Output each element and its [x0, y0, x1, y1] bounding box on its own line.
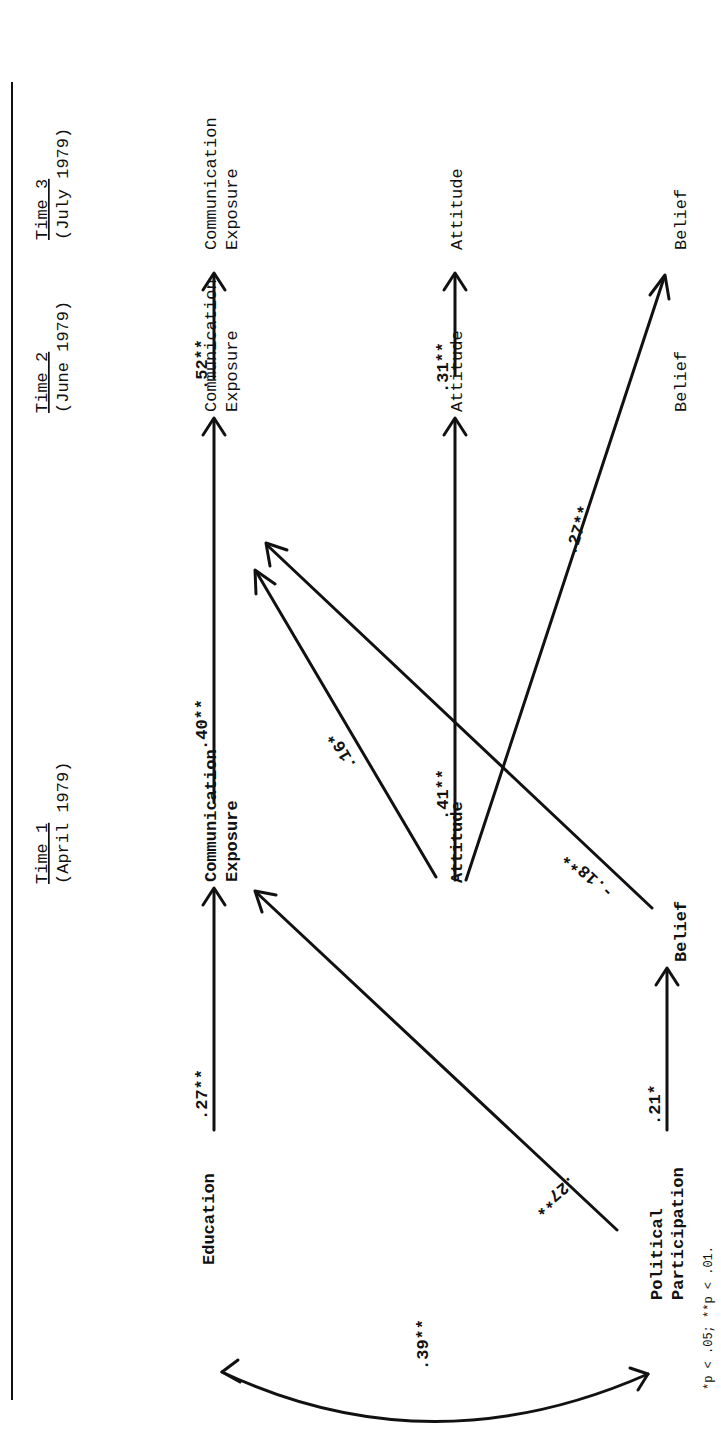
- coef-att1-bel3: .27**: [562, 503, 596, 557]
- significance-footnote: *p < .05; **p < .01.: [702, 1246, 716, 1390]
- arrow-education-pp-correlation: [222, 1360, 648, 1422]
- t3-comm-exposure-line1: Communication: [202, 117, 221, 250]
- time-header-3: Time 3 (July 1979): [33, 128, 73, 240]
- time-2-date: (June 1979): [54, 301, 73, 413]
- t1-comm-exposure-line1: Communication: [202, 749, 221, 882]
- education-node: Education: [200, 1173, 219, 1265]
- time-header-1: Time 1 (April 1979): [33, 762, 73, 884]
- coef-pp-belief: .21*: [646, 1084, 665, 1125]
- coef-pp-comm: .27**: [529, 1171, 580, 1218]
- coef-att23: .31**: [434, 342, 453, 393]
- coef-att12: .41**: [434, 769, 453, 820]
- arrow-attitude-t1-to-comm-t2: [255, 570, 436, 877]
- time-1-title: Time 1: [33, 823, 52, 884]
- t2-comm-exposure-line2: Exposure: [223, 330, 242, 412]
- time-3-date: (July 1979): [54, 128, 73, 240]
- path-diagram: Time 3 (July 1979) Time 2 (June 1979) Ti…: [0, 0, 721, 1455]
- t3-attitude: Attitude: [448, 168, 467, 250]
- coef-edu-comm: .27**: [193, 1069, 212, 1120]
- t3-comm-exposure-line2: Exposure: [223, 168, 242, 250]
- coef-comm23: .52**: [193, 339, 212, 390]
- coef-bel1-comm2: -.18**: [560, 847, 618, 903]
- coef-edu-pp: .39**: [414, 1319, 433, 1370]
- time-header-2: Time 2 (June 1979): [33, 301, 73, 413]
- t1-comm-exposure-line2: Exposure: [223, 800, 242, 882]
- time-2-title: Time 2: [33, 352, 52, 413]
- coef-att1-comm2: .16*: [324, 728, 361, 773]
- time-1-date: (April 1979): [54, 762, 73, 884]
- t2-belief: Belief: [672, 351, 691, 412]
- political-participation-line1: Political: [648, 1208, 667, 1300]
- political-participation-line2: Participation: [669, 1167, 688, 1300]
- arrow-attitude-t1-to-belief-t3: [466, 275, 669, 880]
- time-3-title: Time 3: [33, 179, 52, 240]
- t3-belief: Belief: [672, 189, 691, 250]
- t1-belief: Belief: [672, 901, 691, 962]
- coef-comm12: .40**: [193, 699, 212, 750]
